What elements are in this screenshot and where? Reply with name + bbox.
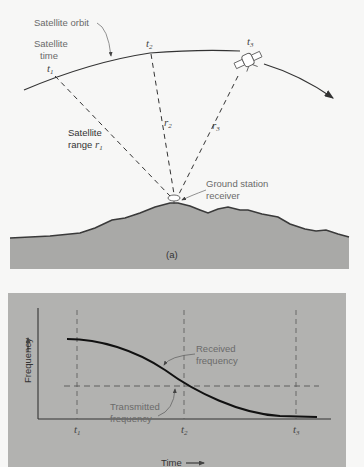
x-axis-label: Time [161,457,182,467]
figure-caption-a: (a) [166,249,178,260]
r2-label: r2 [164,116,172,130]
ground-station-leader [182,190,206,200]
transmitted-frequency-label-1: Transmitted [110,401,160,412]
satellite-time-label-1: Satellite [34,38,68,49]
ground-terrain [10,203,349,269]
r3-label: r3 [212,119,220,133]
figure-canvas: Satellite orbit Satellite time t1 t2 t3 … [0,0,364,467]
t1-label: t1 [47,62,54,76]
chart-panel [8,293,346,467]
satellite-range-label-1: Satellite [68,127,102,138]
transmitted-frequency-label-2: frequency [110,413,152,424]
t2-label: t2 [146,37,153,51]
satellite-range-label-2: range r1 [68,138,103,152]
satellite-geometry-diagram: Satellite orbit Satellite time t1 t2 t3 … [10,17,349,269]
t3-label: t3 [247,35,254,49]
doppler-frequency-chart: Received frequency Transmitted frequency… [8,293,346,467]
orbit-label-leader [97,23,111,56]
received-frequency-label-2: frequency [196,355,238,366]
orbit-direction-arrow [264,64,333,98]
satellite-icon [233,49,265,75]
received-frequency-label-1: Received [196,343,236,354]
ground-station-label-2: receiver [206,190,240,201]
satellite-time-label-2: time [40,50,58,61]
ground-station-label-1: Ground station [206,178,268,189]
satellite-orbit-label: Satellite orbit [34,17,89,28]
